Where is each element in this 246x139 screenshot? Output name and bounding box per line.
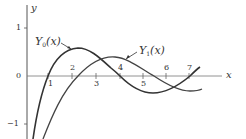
x-tick-label-6: 6 bbox=[164, 64, 169, 72]
y0-curve-label: Y0(x) bbox=[35, 36, 61, 48]
x-axis-label: x bbox=[226, 70, 232, 80]
x-tick-label-2: 2 bbox=[70, 64, 75, 72]
x-tick-label-1: 1 bbox=[48, 80, 53, 88]
y-tick-label-0: 0 bbox=[16, 72, 21, 80]
y-tick-label-m1: −1 bbox=[7, 120, 19, 128]
x-tick-label-7: 7 bbox=[187, 64, 192, 72]
y1-label-arg: (x) bbox=[150, 44, 165, 57]
x-tick-label-5: 5 bbox=[141, 80, 146, 88]
y0-label-arg: (x) bbox=[46, 35, 61, 48]
y-tick-label-1: 1 bbox=[16, 24, 21, 32]
x-tick-label-3: 3 bbox=[94, 80, 99, 88]
x-tick-label-4: 4 bbox=[118, 64, 123, 72]
y1-curve-label: Y1(x) bbox=[139, 45, 165, 57]
curve-y0 bbox=[33, 48, 200, 139]
y-axis-label: y bbox=[31, 3, 37, 13]
